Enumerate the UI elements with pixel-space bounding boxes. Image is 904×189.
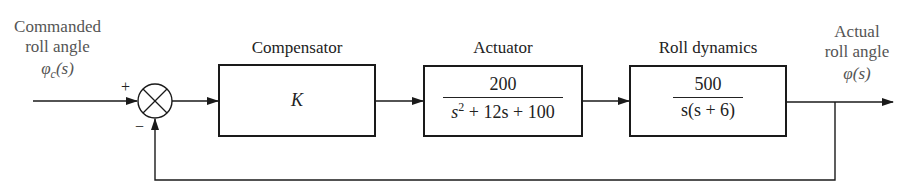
output-symbol: φ(s) xyxy=(810,64,904,84)
actuator-numerator: 200 xyxy=(443,74,563,95)
minus-sign: − xyxy=(135,118,144,136)
plus-sign: + xyxy=(121,78,130,96)
compensator-title: Compensator xyxy=(219,38,375,58)
roll-dynamics-numerator: 500 xyxy=(673,74,743,95)
input-symbol: φc(s) xyxy=(0,59,115,84)
roll-dynamics-title: Roll dynamics xyxy=(630,38,786,58)
compensator-transfer-function: K xyxy=(219,90,375,111)
output-label-line1: Actual xyxy=(810,22,904,42)
input-label: Commanded roll angle φc(s) xyxy=(0,17,115,84)
input-label-line2: roll angle xyxy=(0,37,115,57)
actuator-denominator: s2 + 12s + 100 xyxy=(443,100,563,123)
actuator-transfer-function: 200 s2 + 12s + 100 xyxy=(443,74,563,123)
roll-dynamics-denominator: s(s + 6) xyxy=(673,100,743,121)
roll-dynamics-transfer-function: 500 s(s + 6) xyxy=(673,74,743,121)
fraction-bar xyxy=(673,97,743,98)
fraction-bar xyxy=(443,97,563,98)
output-label-line2: roll angle xyxy=(810,42,904,62)
output-label: Actual roll angle φ(s) xyxy=(810,22,904,84)
actuator-title: Actuator xyxy=(424,38,582,58)
input-label-line1: Commanded xyxy=(0,17,115,37)
summing-junction xyxy=(138,84,172,118)
